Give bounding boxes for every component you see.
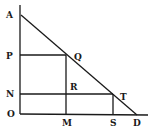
label-q: Q <box>74 52 82 62</box>
label-s: S <box>110 118 117 128</box>
horizontal-axis-od <box>20 114 148 115</box>
label-r: R <box>70 82 78 92</box>
label-n: N <box>6 89 14 99</box>
label-a: A <box>5 10 14 20</box>
geometry-diagram: A P N O Q R T M S D <box>0 0 151 129</box>
label-d: D <box>133 118 141 128</box>
label-o: O <box>7 109 15 119</box>
label-t: T <box>120 92 127 102</box>
label-m: M <box>62 118 72 128</box>
label-p: P <box>6 51 13 61</box>
